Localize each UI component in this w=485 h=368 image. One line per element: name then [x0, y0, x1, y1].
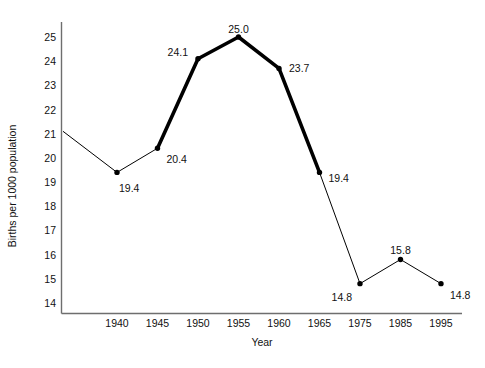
- line-segment: [360, 259, 401, 283]
- line-segment: [63, 131, 117, 172]
- line-segment-highlighted: [279, 68, 320, 172]
- data-point-1960: [276, 66, 281, 71]
- line-segment-highlighted: [198, 37, 239, 59]
- line-segment: [117, 148, 158, 172]
- data-point-1975: [357, 281, 362, 286]
- data-point-1940: [114, 170, 119, 175]
- line-segment-highlighted: [158, 59, 199, 148]
- x-tick-1940: 1940: [105, 318, 128, 329]
- birthrate-line-chart: U.S. Birthrate 1935-1995 Births per 1000…: [0, 0, 485, 368]
- data-point-1995: [438, 281, 443, 286]
- data-point-1945: [155, 146, 160, 151]
- x-tick-1955: 1955: [227, 318, 250, 329]
- data-point-1955: [236, 34, 241, 39]
- x-axis-title: Year: [61, 336, 463, 348]
- data-point-1950: [195, 56, 200, 61]
- data-point-1985: [398, 257, 403, 262]
- point-label-1955: 25.0: [228, 24, 248, 35]
- point-label-1965: 19.4: [329, 173, 349, 184]
- x-tick-1960: 1960: [267, 318, 290, 329]
- x-tick-1950: 1950: [186, 318, 209, 329]
- data-point-1965: [317, 170, 322, 175]
- point-label-1940: 19.4: [119, 183, 139, 194]
- plot-area: [0, 0, 485, 368]
- line-segment: [320, 172, 361, 283]
- point-label-1995: 14.8: [450, 289, 470, 300]
- x-tick-1975: 1975: [348, 318, 371, 329]
- line-segment-highlighted: [239, 37, 280, 68]
- point-label-1985: 15.8: [390, 245, 410, 256]
- x-tick-1945: 1945: [146, 318, 169, 329]
- point-label-1960: 23.7: [289, 63, 309, 74]
- point-label-1950: 24.1: [168, 47, 188, 58]
- x-tick-1985: 1985: [389, 318, 412, 329]
- x-tick-1995: 1995: [429, 318, 452, 329]
- x-tick-1965: 1965: [308, 318, 331, 329]
- line-segment: [401, 259, 442, 283]
- point-label-1975: 14.8: [332, 291, 352, 302]
- point-label-1945: 20.4: [167, 154, 187, 165]
